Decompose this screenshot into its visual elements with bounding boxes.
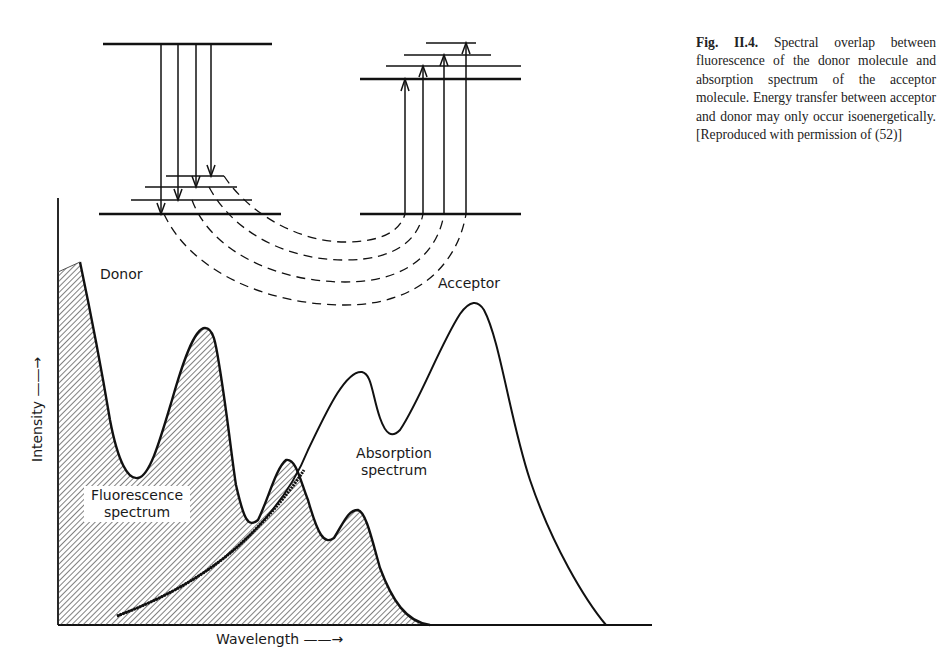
coupling-arc-2 xyxy=(209,187,423,260)
acceptor-energy-levels xyxy=(360,43,521,214)
x-axis-label: Wavelength ——→ xyxy=(216,631,343,648)
fluorescence-spectrum-label: Fluorescence spectrum xyxy=(84,486,190,522)
figure-caption: Fig. II.4. Spectral overlap between fluo… xyxy=(696,34,936,144)
y-axis-label: Intensity ——→ xyxy=(29,357,46,462)
acceptor-label: Acceptor xyxy=(438,275,500,292)
coupling-arc-4 xyxy=(164,214,466,305)
caption-text: Spectral overlap between fluorescence of… xyxy=(696,35,936,142)
absorption-label-line-2: spectrum xyxy=(352,462,436,479)
acceptor-absorption-arrows xyxy=(401,43,470,214)
isoenergetic-coupling-arcs xyxy=(164,176,466,305)
donor-energy-levels xyxy=(99,44,281,214)
donor-label: Donor xyxy=(100,266,143,283)
fluorescence-label-line-1: Fluorescence xyxy=(87,487,187,504)
fluorescence-label-line-2: spectrum xyxy=(87,504,187,521)
figure-number: Fig. II.4. xyxy=(696,35,758,50)
donor-fluorescence-area xyxy=(58,262,430,625)
absorption-label-line-1: Absorption xyxy=(352,445,436,462)
coupling-arc-3 xyxy=(192,200,444,282)
absorption-spectrum-label: Absorption spectrum xyxy=(352,445,436,479)
donor-emission-arrows xyxy=(157,44,215,214)
